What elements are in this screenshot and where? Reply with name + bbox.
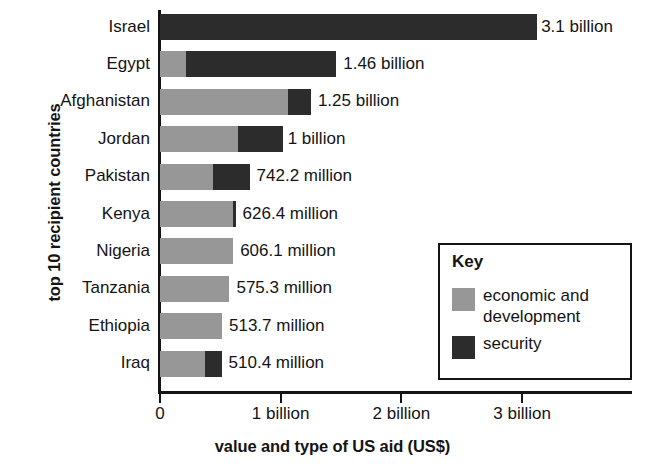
bar-segment-economic bbox=[160, 351, 205, 377]
bar-segment-economic bbox=[160, 238, 233, 264]
x-axis-tick-label: 0 bbox=[100, 404, 220, 424]
category-label: Ethiopia bbox=[0, 316, 150, 336]
category-label: Egypt bbox=[0, 54, 150, 74]
bar-segment-economic bbox=[160, 126, 238, 152]
legend-label-economic: economic anddevelopment bbox=[483, 285, 589, 327]
bar-row: Jordan1 billion bbox=[0, 126, 665, 152]
x-axis-tick-label: 2 billion bbox=[341, 404, 461, 424]
bar-segment-security bbox=[160, 14, 537, 40]
legend-swatch-security-icon bbox=[452, 336, 475, 359]
bar-value-label: 513.7 million bbox=[229, 316, 324, 336]
bar-row: Egypt1.46 billion bbox=[0, 51, 665, 77]
bar-segment-economic bbox=[160, 276, 229, 302]
category-label: Afghanistan bbox=[0, 91, 150, 111]
category-label: Pakistan bbox=[0, 166, 150, 186]
legend-key-box: Key economic anddevelopment security bbox=[438, 243, 632, 380]
bar-segment-economic bbox=[160, 51, 186, 77]
bar-value-label: 1.25 billion bbox=[318, 91, 399, 111]
bar-value-label: 575.3 million bbox=[236, 278, 331, 298]
bar-segment-economic bbox=[160, 201, 233, 227]
bar-value-label: 742.2 million bbox=[257, 166, 352, 186]
category-label: Israel bbox=[0, 17, 150, 37]
bar-value-label: 1 billion bbox=[288, 129, 346, 149]
bar-segment-economic bbox=[160, 164, 213, 190]
bar-chart: top 10 recipient countries Israel3.1 bil… bbox=[0, 0, 665, 469]
category-label: Jordan bbox=[0, 129, 150, 149]
x-axis-title: value and type of US aid (US$) bbox=[0, 437, 665, 456]
category-label: Iraq bbox=[0, 353, 150, 373]
bar-row: Afghanistan1.25 billion bbox=[0, 89, 665, 115]
bar-row: Kenya626.4 million bbox=[0, 201, 665, 227]
category-label: Tanzania bbox=[0, 278, 150, 298]
bar-segment-security bbox=[186, 51, 336, 77]
x-axis-tick bbox=[521, 394, 523, 403]
bar-value-label: 626.4 million bbox=[243, 204, 338, 224]
bar-row: Pakistan742.2 million bbox=[0, 164, 665, 190]
x-axis-tick-label: 3 billion bbox=[462, 404, 582, 424]
bar-segment-security bbox=[205, 351, 222, 377]
bar-value-label: 606.1 million bbox=[240, 241, 335, 261]
bar-value-label: 1.46 billion bbox=[343, 54, 424, 74]
bar-segment-security bbox=[213, 164, 249, 190]
bar-segment-security bbox=[233, 201, 236, 227]
bar-row: Israel3.1 billion bbox=[0, 14, 665, 40]
legend-title: Key bbox=[452, 252, 483, 272]
bar-value-label: 510.4 million bbox=[229, 353, 324, 373]
bar-value-label: 3.1 billion bbox=[541, 17, 613, 37]
x-axis-tick bbox=[400, 394, 402, 403]
x-axis-line bbox=[158, 391, 632, 394]
bar-segment-economic bbox=[160, 313, 222, 339]
legend-label-security: security bbox=[483, 333, 542, 354]
category-label: Nigeria bbox=[0, 241, 150, 261]
x-axis-tick-label: 1 billion bbox=[221, 404, 341, 424]
x-axis-tick bbox=[159, 394, 161, 403]
x-axis-tick bbox=[280, 394, 282, 403]
bar-segment-economic bbox=[160, 89, 288, 115]
legend-swatch-economic-icon bbox=[452, 288, 475, 311]
bar-segment-security bbox=[288, 89, 311, 115]
bar-segment-security bbox=[238, 126, 283, 152]
category-label: Kenya bbox=[0, 204, 150, 224]
